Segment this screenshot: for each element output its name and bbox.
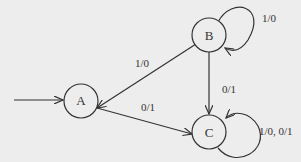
diagram-svg: 1/0 0/1 0/1 1/0 1/0, 0/1 A B C — [0, 0, 301, 162]
state-diagram: 1/0 0/1 0/1 1/0 1/0, 0/1 A B C — [0, 0, 301, 162]
state-c: C — [192, 115, 226, 149]
edge-label-b-to-a: 1/0 — [135, 57, 150, 69]
edge-label-b-to-b: 1/0 — [262, 12, 277, 24]
state-b-label: B — [205, 28, 214, 43]
edge-label-c-to-c: 1/0, 0/1 — [259, 125, 293, 137]
edge-b-to-a — [97, 44, 196, 108]
state-b: B — [192, 18, 226, 52]
state-a-label: A — [76, 93, 86, 108]
state-c-label: C — [205, 125, 214, 140]
edge-label-b-to-c: 0/1 — [222, 83, 236, 95]
state-a: A — [64, 84, 98, 118]
edge-label-a-to-c: 0/1 — [141, 101, 155, 113]
